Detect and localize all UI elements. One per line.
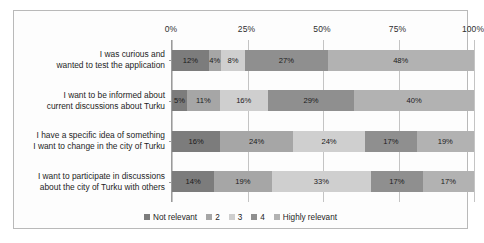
category-label-line: I have a specific idea of something [27, 130, 165, 141]
x-axis-tick-25: 25% [238, 24, 255, 34]
legend-label: 4 [260, 213, 265, 222]
bar-segment: 29% [268, 90, 355, 111]
bar-segment: 4% [209, 50, 221, 71]
chart-frame: 0%25%50%75%100% I was curious andwanted … [13, 10, 468, 229]
bar-segment: 27% [245, 50, 327, 71]
category-label-line: I want to be informed about [27, 90, 165, 101]
bar-segment-value: 27% [279, 56, 294, 65]
bar-segment: 11% [187, 90, 220, 111]
bar-segment-value: 16% [189, 137, 204, 146]
stacked-bar: 14%19%33%17%17% [172, 171, 474, 192]
bar-segment-value: 8% [227, 56, 238, 65]
bar-segment: 33% [272, 171, 372, 192]
bar-segment: 19% [417, 131, 474, 152]
legend-label: Highly relevant [283, 213, 337, 222]
bar-segment-value: 19% [235, 177, 250, 186]
bar-segment-value: 14% [186, 177, 201, 186]
category-label-2: I have a specific idea of somethingI wan… [27, 130, 171, 152]
bar-row: 12%4%8%27%48% [172, 40, 474, 81]
bar-segment: 24% [293, 131, 365, 152]
bar-segment: 14% [172, 171, 214, 192]
bar-segment: 12% [172, 50, 209, 71]
stacked-bar: 12%4%8%27%48% [172, 50, 474, 71]
category-label-line: wanted to test the application [27, 60, 165, 71]
bar-rows: 12%4%8%27%48%5%11%16%29%40%16%24%24%17%1… [172, 40, 474, 202]
bar-segment-value: 17% [389, 177, 404, 186]
bar-segment: 40% [354, 90, 474, 111]
category-label-0: I was curious andwanted to test the appl… [27, 49, 171, 71]
bar-segment-value: 17% [383, 137, 398, 146]
x-axis-tick-100: 100% [462, 24, 484, 34]
legend-swatch-icon [251, 214, 257, 220]
category-label-line: I was curious and [27, 49, 165, 60]
bar-segment-value: 5% [174, 96, 185, 105]
bar-segment: 24% [220, 131, 292, 152]
bar-segment: 48% [328, 50, 474, 71]
bar-segment-value: 24% [249, 137, 264, 146]
legend-item-2[interactable]: 3 [229, 213, 243, 222]
legend-item-4[interactable]: Highly relevant [274, 213, 337, 222]
legend-label: 3 [238, 213, 243, 222]
legend-label: 2 [215, 213, 220, 222]
stacked-bar: 16%24%24%17%19% [172, 131, 474, 152]
bar-segment-value: 16% [236, 96, 251, 105]
legend-swatch-icon [144, 214, 150, 220]
bar-segment: 8% [221, 50, 245, 71]
category-axis-labels: I was curious andwanted to test the appl… [27, 40, 171, 202]
bar-segment-value: 29% [303, 96, 318, 105]
category-label-line: about the city of Turku with others [27, 182, 165, 193]
gridline-100 [474, 40, 475, 202]
category-label-line: current discussions about Turku [27, 101, 165, 112]
bar-segment: 17% [423, 171, 474, 192]
bar-segment: 16% [220, 90, 268, 111]
plot-area: 12%4%8%27%48%5%11%16%29%40%16%24%24%17%1… [171, 40, 474, 202]
bar-segment-value: 17% [441, 177, 456, 186]
category-label-1: I want to be informed aboutcurrent discu… [27, 90, 171, 112]
bar-segment-value: 4% [209, 56, 220, 65]
bar-segment: 19% [214, 171, 271, 192]
x-axis-tick-50: 50% [313, 24, 330, 34]
x-axis-tick-0: 0% [165, 24, 178, 34]
bar-row: 16%24%24%17%19% [172, 121, 474, 162]
chart-legend: Not relevant234Highly relevant [27, 209, 454, 225]
bar-segment-value: 11% [196, 96, 211, 105]
bar-segment: 17% [365, 131, 416, 152]
legend-swatch-icon [229, 214, 235, 220]
legend-swatch-icon [206, 214, 212, 220]
bar-segment-value: 12% [183, 56, 198, 65]
bar-segment-value: 48% [393, 56, 408, 65]
legend-swatch-icon [274, 214, 280, 220]
bar-segment-value: 33% [314, 177, 329, 186]
legend-label: Not relevant [153, 213, 197, 222]
legend-item-0[interactable]: Not relevant [144, 213, 197, 222]
legend-item-1[interactable]: 2 [206, 213, 220, 222]
bar-segment-value: 19% [438, 137, 453, 146]
legend-item-3[interactable]: 4 [251, 213, 265, 222]
bar-segment: 17% [371, 171, 422, 192]
bar-row: 5%11%16%29%40% [172, 81, 474, 122]
stacked-bar: 5%11%16%29%40% [172, 90, 474, 111]
bar-segment-value: 24% [321, 137, 336, 146]
bar-row: 14%19%33%17%17% [172, 162, 474, 203]
category-label-line: I want to participate in discussions [27, 171, 165, 182]
bar-segment: 5% [172, 90, 187, 111]
category-label-line: I want to change in the city of Turku [27, 141, 165, 152]
category-label-3: I want to participate in discussionsabou… [27, 171, 171, 193]
bar-segment-value: 40% [407, 96, 422, 105]
x-axis-tick-75: 75% [389, 24, 406, 34]
x-axis-tick-labels: 0%25%50%75%100% [171, 24, 473, 38]
bar-segment: 16% [172, 131, 220, 152]
